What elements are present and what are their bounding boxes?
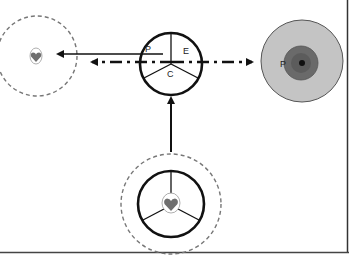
center-wheel-label-c: C (167, 69, 174, 79)
right-core-dot (299, 60, 305, 66)
bottom-wheel-spoke-left (143, 209, 164, 220)
center-wheel-label-p: P (145, 44, 151, 54)
center-wheel: P E C (140, 33, 202, 95)
left-cell (0, 16, 77, 96)
right-cell-label-p: P (280, 59, 286, 69)
diagram-svg: P P E C (0, 0, 349, 256)
right-cell: P (261, 20, 343, 102)
diagram-canvas: P P E C (0, 0, 349, 256)
bottom-wheel-spoke-right (178, 209, 199, 220)
center-wheel-label-e: E (183, 46, 189, 56)
bottom-cell (121, 154, 221, 254)
center-wheel-spoke-right (171, 64, 198, 78)
